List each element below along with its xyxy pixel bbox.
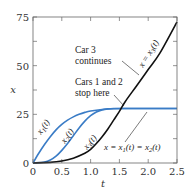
annotation-car3: Car 3 continues (75, 45, 112, 66)
x-tick-label: 2.0 (140, 166, 156, 177)
y-tick-label: 0 (23, 158, 29, 169)
annotation-arrow-x1x2 (125, 112, 147, 142)
x-tick-label: 0 (30, 166, 36, 177)
y-tick-label: 25 (16, 109, 29, 120)
curve-x1 (33, 108, 177, 163)
y-tick-label: 50 (16, 61, 29, 72)
chart: 00.51.01.52.02.50255075 t x Car 3 contin… (0, 0, 194, 192)
x-tick-label: 1.0 (83, 166, 99, 177)
x-tick-label: 1.5 (111, 166, 127, 177)
x-tick-label: 0.5 (54, 166, 70, 177)
label-x1-x2-equation: x = x1(t) = x2(t) (103, 142, 161, 153)
curve-x2 (33, 108, 177, 163)
annotation-arrow-cars12 (114, 95, 124, 106)
y-tick-label: 75 (16, 12, 29, 23)
label-x3-equation: x = x3(t) (136, 38, 162, 70)
x-tick-label: 2.5 (169, 166, 185, 177)
label-x1: x1(t) (34, 118, 53, 138)
y-axis-label: x (10, 84, 16, 95)
annotation-cars12: Cars 1 and 2 stop here (75, 77, 125, 98)
x-axis-label: t (101, 178, 106, 189)
